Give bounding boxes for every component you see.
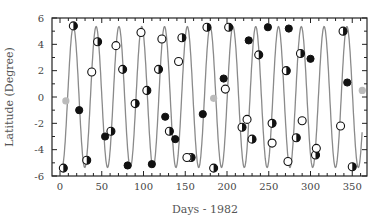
- latitude-chart: 050100150200250300350-6-4-20246 Days - 1…: [0, 0, 385, 220]
- data-point-half-filled-circle: [59, 164, 67, 172]
- data-point-half-filled-circle: [225, 23, 233, 31]
- data-point-half-filled-circle: [255, 51, 263, 59]
- data-point-filled-circle: [124, 162, 131, 169]
- data-point-open-circle: [175, 57, 183, 65]
- data-point-filled-circle: [264, 24, 271, 31]
- data-point-filled-circle: [162, 113, 169, 120]
- x-axis-title: Days - 1982: [172, 203, 238, 216]
- data-point-gray-circle: [62, 97, 69, 104]
- data-point-open-circle: [284, 158, 292, 166]
- data-point-half-filled-circle: [248, 135, 256, 143]
- x-tick-label: 250: [259, 181, 278, 192]
- data-point-open-circle: [312, 144, 320, 152]
- x-tick-label: 150: [176, 181, 195, 192]
- data-point-half-filled-circle: [282, 67, 290, 75]
- data-point-half-filled-circle: [203, 23, 211, 31]
- data-point-gray-circle: [210, 95, 217, 102]
- data-point-filled-circle: [101, 133, 108, 140]
- data-point-half-filled-circle: [339, 27, 347, 35]
- data-point-open-circle: [337, 122, 345, 130]
- data-point-filled-circle: [245, 37, 252, 44]
- data-point-half-filled-circle: [238, 123, 246, 131]
- data-point-half-filled-circle: [69, 22, 77, 30]
- x-tick-label: 200: [217, 181, 236, 192]
- data-point-gray-circle: [359, 87, 366, 94]
- data-point-filled-circle: [307, 55, 314, 62]
- x-tick-label: 350: [343, 181, 362, 192]
- data-point-half-filled-circle: [348, 163, 356, 171]
- data-point-filled-circle: [285, 25, 292, 32]
- data-point-open-circle: [268, 139, 276, 147]
- data-point-open-circle: [298, 117, 306, 125]
- data-point-open-circle: [158, 35, 166, 43]
- data-point-open-circle: [221, 85, 229, 93]
- y-tick-label: 6: [38, 13, 44, 24]
- data-point-filled-circle: [344, 79, 351, 86]
- data-point-open-circle: [88, 68, 96, 76]
- data-point-half-filled-circle: [210, 164, 218, 172]
- data-point-half-filled-circle: [296, 50, 304, 58]
- x-tick-label: 300: [301, 181, 320, 192]
- data-point-half-filled-circle: [292, 134, 300, 142]
- data-point-filled-circle: [220, 75, 227, 82]
- x-tick-label: 0: [57, 181, 63, 192]
- data-point-half-filled-circle: [155, 65, 163, 73]
- data-point-half-filled-circle: [143, 86, 151, 94]
- data-point-open-circle: [183, 154, 191, 162]
- data-point-filled-circle: [76, 107, 83, 114]
- data-point-open-circle: [112, 42, 120, 50]
- data-point-open-circle: [243, 115, 251, 123]
- data-point-half-filled-circle: [178, 34, 186, 42]
- data-point-open-circle: [137, 28, 145, 36]
- data-point-half-filled-circle: [131, 100, 139, 108]
- data-point-filled-circle: [172, 136, 179, 143]
- y-tick-label: -2: [34, 118, 44, 129]
- data-point-filled-circle: [199, 111, 206, 118]
- y-tick-label: 4: [38, 39, 44, 50]
- y-tick-label: -6: [34, 171, 44, 182]
- data-point-half-filled-circle: [165, 127, 173, 135]
- data-point-half-filled-circle: [83, 156, 91, 164]
- y-tick-label: -4: [34, 144, 44, 155]
- data-point-half-filled-circle: [268, 119, 276, 127]
- y-tick-label: 2: [38, 65, 44, 76]
- y-tick-label: 0: [38, 92, 44, 103]
- data-point-half-filled-circle: [94, 38, 102, 46]
- y-axis-title: Latitude (Degree): [3, 47, 16, 147]
- data-point-filled-circle: [148, 161, 155, 168]
- x-tick-label: 100: [134, 181, 153, 192]
- data-point-half-filled-circle: [119, 65, 127, 73]
- x-tick-label: 50: [95, 181, 108, 192]
